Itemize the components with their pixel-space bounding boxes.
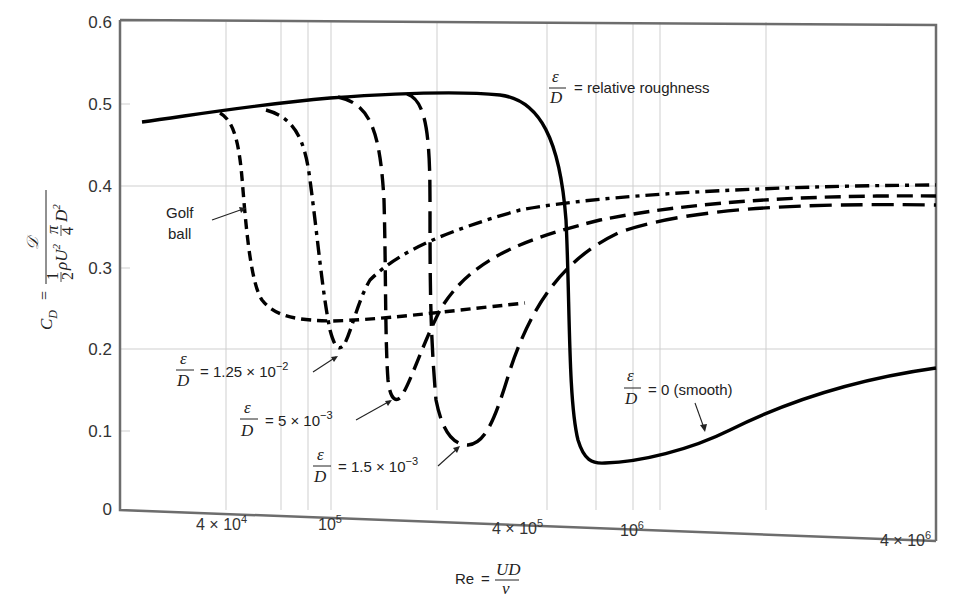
curve-rough-1.25e-2 [266,110,936,348]
golf-ball-line1: Golf [166,204,194,221]
drag-coefficient-chart: 0.6 0.5 0.4 0.3 0.2 0.1 0 4 × 104 105 4 … [0,0,963,597]
x-tick-label: 4 × 105 [492,517,543,537]
x-axis-label: Re = UD ν [455,560,521,597]
annotation-rough-1.25e-2: ε D = 1.25 × 10−2 [176,349,338,390]
arrowhead [700,424,707,432]
eps-den: D [313,467,327,486]
ylabel-eq: = [36,291,53,300]
annotation-rough-1.5e-3: ε D = 1.5 × 10−3 [313,445,460,486]
rough-1.5e-3-text: = 1.5 × 10−3 [338,455,418,475]
x-tick-label: 105 [318,513,342,533]
y-tick-label: 0.2 [88,340,112,359]
xlabel-re: Re [455,570,474,587]
curve-smooth [142,93,936,463]
smooth-text: = 0 (smooth) [648,381,733,398]
annotation-golf-ball: Golf ball [166,204,246,242]
annotation-rough-5e-3: ε D = 5 × 10−3 [240,398,392,440]
eps-num: ε [627,366,634,385]
golf-ball-line2: ball [168,225,191,242]
x-tick-label: 106 [620,519,644,539]
eps-den: D [549,88,563,107]
eps-den: D [624,389,638,408]
arrow [438,448,458,466]
xlabel-den: ν [502,579,510,597]
y-tick-label: 0 [103,500,112,519]
y-tick-label: 0.3 [88,259,112,278]
y-tick-label: 0.5 [88,95,112,114]
ylabel-d2: D2 [50,204,71,223]
eps-num: ε [552,67,559,86]
ylabel-pi-den: 4 [59,227,76,235]
ylabel-num: 𝒟 [24,234,41,250]
eps-den: D [240,421,254,440]
annotation-relative-roughness: ε D = relative roughness [549,67,710,107]
annotation-smooth: ε D = 0 (smooth) [624,366,733,432]
x-tick-label: 4 × 106 [880,529,931,549]
curve-golf-ball [220,113,525,321]
rough-1.25e-2-text: = 1.25 × 10−2 [200,360,288,380]
roughness-def-text: = relative roughness [574,79,710,96]
rough-5e-3-text: = 5 × 10−3 [265,409,333,429]
eps-num: ε [180,349,187,368]
eps-num: ε [317,445,324,464]
x-axis-ticks: 4 × 104 105 4 × 105 106 4 × 106 [196,513,931,549]
y-axis-ticks: 0.6 0.5 0.4 0.3 0.2 0.1 0 [88,13,112,519]
xlabel-num: UD [496,560,521,579]
eps-num: ε [244,398,251,417]
curves [142,93,936,463]
ylabel-cd: CD [37,310,60,330]
arrow [356,401,390,420]
ylabel-rho-u: ρU2 [50,244,71,271]
x-tick-label: 4 × 104 [196,513,247,533]
plot-frame [120,20,936,541]
eps-den: D [176,371,190,390]
curve-rough-5e-3 [338,97,936,399]
y-axis-label: CD = 𝒟 1 2 ρU2 π 4 D2 [24,190,76,330]
y-tick-label: 0.6 [88,13,112,32]
y-tick-label: 0.4 [88,177,112,196]
xlabel-eq: = [481,570,490,587]
arrow [695,403,704,428]
y-tick-label: 0.1 [88,422,112,441]
ylabel-half-den: 2 [59,272,76,280]
